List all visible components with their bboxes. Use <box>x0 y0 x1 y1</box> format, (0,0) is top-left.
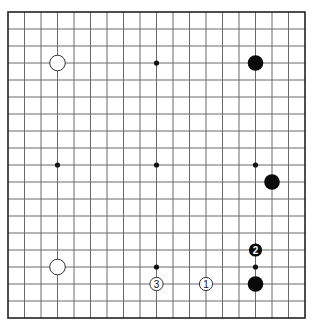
star-point-icon <box>154 60 159 65</box>
black-stone <box>248 55 264 71</box>
black-stone <box>248 276 264 292</box>
star-point-icon <box>154 264 159 269</box>
numbered-black-stone: 2 <box>249 243 262 256</box>
black-stone <box>264 174 280 190</box>
white-stone-icon <box>50 259 66 275</box>
go-board-diagram: 123 <box>0 0 313 329</box>
star-point-icon <box>154 162 159 167</box>
star-point-icon <box>55 162 60 167</box>
move-number-label: 3 <box>154 279 160 290</box>
stones-layer: 123 <box>50 55 280 292</box>
move-number-label: 2 <box>253 245 259 256</box>
white-stone <box>50 259 66 275</box>
numbered-white-stone: 3 <box>150 277 163 290</box>
move-number-label: 1 <box>203 279 209 290</box>
white-stone <box>50 55 66 71</box>
black-stone-icon <box>264 174 280 190</box>
star-point-icon <box>253 264 258 269</box>
black-stone-icon <box>248 276 264 292</box>
black-stone-icon <box>248 55 264 71</box>
go-board: 123 <box>0 0 313 329</box>
numbered-white-stone: 1 <box>199 277 212 290</box>
star-point-icon <box>253 162 258 167</box>
white-stone-icon <box>50 55 66 71</box>
